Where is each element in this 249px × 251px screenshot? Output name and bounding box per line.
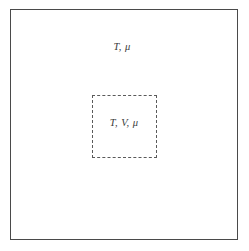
outer-reservoir-label: T, μ: [113, 42, 130, 53]
inner-subsystem-label: T, V, μ: [110, 118, 139, 129]
diagram-canvas: T, μ T, V, μ: [0, 0, 249, 251]
